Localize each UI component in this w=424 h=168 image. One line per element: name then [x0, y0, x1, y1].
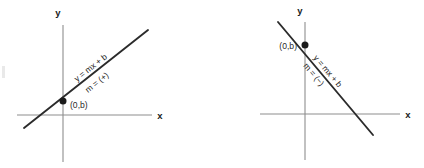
y-intercept-label-negative: (0,b) [279, 41, 297, 51]
panel-positive-slope: y x (0,b) y = mx + b m = (+) [17, 7, 163, 162]
figure-canvas: y x (0,b) y = mx + b m = (+) y x (0,b) y… [0, 0, 424, 168]
y-intercept-dot-positive [60, 98, 67, 105]
x-axis-label-negative: x [405, 109, 411, 120]
slope-intercept-figure: y x (0,b) y = mx + b m = (+) y x (0,b) y… [0, 0, 424, 168]
graph-line-positive [24, 30, 148, 128]
graph-line-negative [278, 22, 373, 135]
y-axis-label-negative: y [297, 5, 303, 16]
edge-artifact [2, 66, 5, 78]
panel-negative-slope: y x (0,b) y = mx + b m = (−) [260, 5, 411, 160]
y-intercept-dot-negative [302, 42, 309, 49]
y-axis-label-positive: y [55, 7, 61, 18]
y-intercept-label-positive: (0,b) [70, 100, 88, 110]
x-axis-label-positive: x [157, 110, 163, 121]
